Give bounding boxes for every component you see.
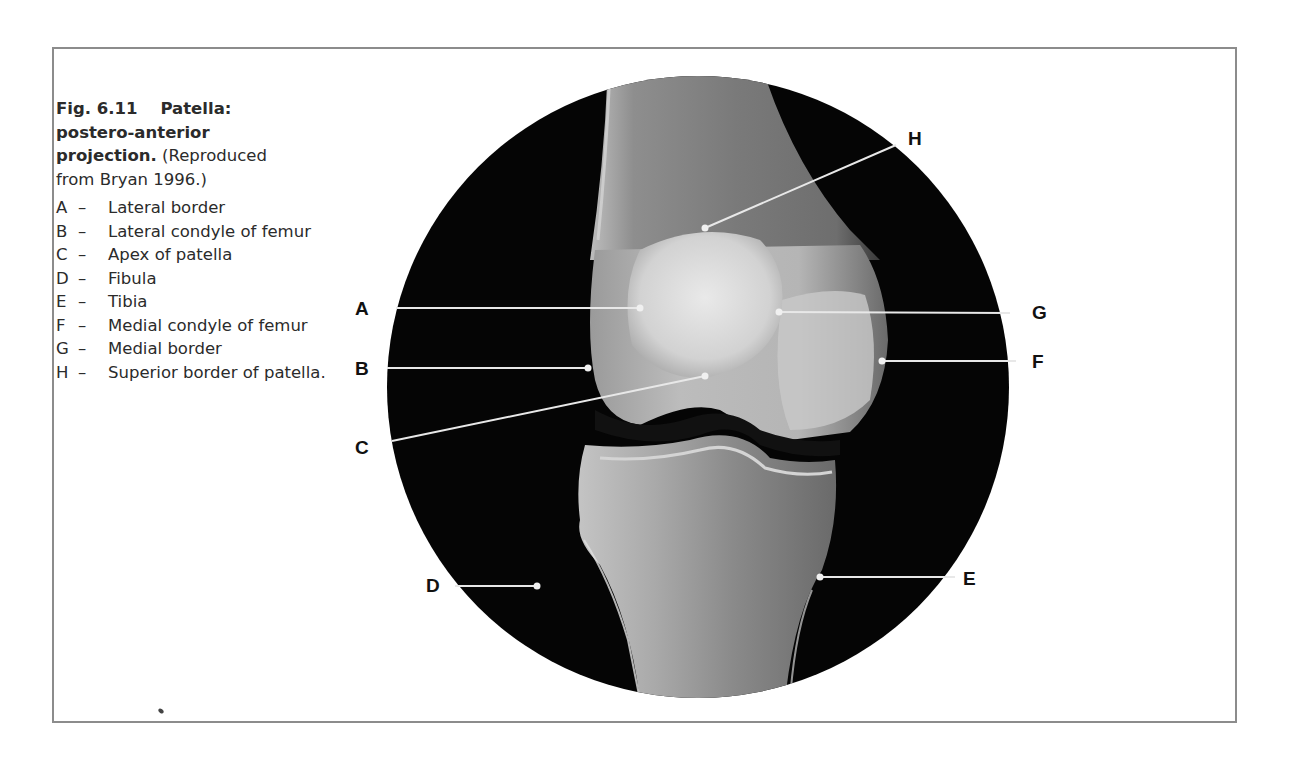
label-d: D bbox=[426, 576, 440, 595]
label-b: B bbox=[355, 359, 369, 378]
xray-circle bbox=[380, 60, 1020, 710]
label-h: H bbox=[908, 129, 922, 148]
label-f: F bbox=[1032, 352, 1044, 371]
label-g: G bbox=[1032, 303, 1047, 322]
label-a: A bbox=[355, 299, 369, 318]
leader-g bbox=[779, 312, 1010, 313]
label-e: E bbox=[963, 569, 976, 588]
label-c: C bbox=[355, 438, 369, 457]
xray-image bbox=[0, 0, 1289, 775]
